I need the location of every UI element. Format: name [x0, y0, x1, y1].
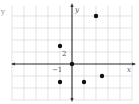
data-point	[82, 80, 86, 84]
axes	[11, 3, 136, 102]
data-point	[58, 44, 62, 48]
y-axis-arrow-up-icon	[70, 3, 73, 7]
y-tick-label-2: 2	[62, 50, 66, 58]
data-point	[58, 80, 62, 84]
data-point	[94, 14, 98, 18]
scatter-plot: x y 2 −1	[0, 0, 139, 104]
data-point	[70, 62, 74, 66]
x-axis-label: x	[127, 66, 131, 74]
x-axis-arrow-right-icon	[132, 62, 136, 65]
y-axis-label: y	[74, 6, 80, 14]
x-tick-label-neg1: −1	[52, 66, 62, 74]
data-points	[58, 14, 104, 84]
data-point	[100, 74, 104, 78]
x-axis-arrow-left-icon	[11, 62, 15, 65]
